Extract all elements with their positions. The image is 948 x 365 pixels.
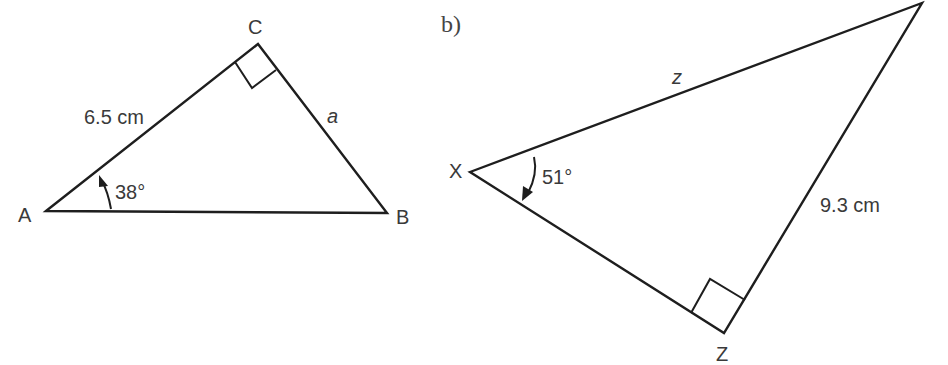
angle-label-x: 51° bbox=[542, 166, 572, 188]
right-angle-marker-c bbox=[235, 62, 276, 88]
side-label-ac: 6.5 cm bbox=[84, 106, 144, 128]
side-label-cb: a bbox=[327, 105, 338, 127]
vertex-label-z: Z bbox=[716, 343, 728, 365]
vertex-label-a: A bbox=[18, 204, 32, 226]
vertex-label-x: X bbox=[449, 160, 462, 182]
angle-arrow-a-icon bbox=[99, 175, 111, 209]
triangle-xyz bbox=[470, 3, 922, 333]
triangle-xyz-outline bbox=[470, 3, 922, 333]
part-label-b: b) bbox=[441, 11, 461, 37]
vertex-label-b: B bbox=[396, 206, 409, 228]
side-label-xy: z bbox=[671, 66, 682, 88]
triangle-abc bbox=[46, 44, 387, 213]
right-angle-marker-z bbox=[691, 279, 745, 313]
triangle-abc-outline bbox=[46, 44, 387, 213]
vertex-label-c: C bbox=[248, 16, 262, 38]
side-label-zy: 9.3 cm bbox=[820, 194, 880, 216]
angle-label-a: 38° bbox=[115, 181, 145, 203]
diagram-canvas: C A B 6.5 cm a 38° b) X Z z 9.3 cm 51° bbox=[0, 0, 948, 365]
angle-arrow-x-icon bbox=[522, 157, 535, 201]
